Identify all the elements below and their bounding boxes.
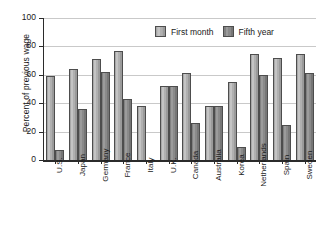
x-label-cell: Korea (225, 165, 248, 231)
x-label-cell: Japan (67, 165, 90, 231)
y-tick-label: 40 (0, 97, 36, 107)
x-tick-label: Germany (101, 148, 110, 181)
bar-fifth (123, 99, 132, 160)
bar-group (44, 18, 67, 160)
bar-group (112, 18, 135, 160)
y-tick-label: 60 (0, 69, 36, 79)
y-tick-mark (39, 103, 43, 104)
bar-group (293, 18, 316, 160)
legend-swatch-icon (155, 26, 166, 37)
bar-fifth (101, 72, 110, 160)
x-axis-labels: U.S.JapanGermanyFranceItalyU.K.CanadaAus… (44, 165, 316, 231)
x-tick-label: Korea (237, 154, 246, 176)
x-tick-label: Spain (282, 155, 291, 176)
y-tick-mark (39, 160, 43, 161)
x-label-cell: Australia (203, 165, 226, 231)
bar-first (114, 51, 123, 160)
bar-first (46, 76, 55, 160)
x-tick-label: Japan (78, 154, 87, 176)
bar-first (69, 69, 78, 160)
legend-label: First month (171, 27, 214, 37)
bar-first (137, 106, 146, 160)
bar-first (296, 54, 305, 161)
x-label-cell: France (112, 165, 135, 231)
x-label-cell: Netherlands (248, 165, 271, 231)
bar-group (89, 18, 112, 160)
y-tick-label: 20 (0, 126, 36, 136)
x-tick-label: Australia (214, 149, 223, 181)
legend-item-first-month: First month (155, 26, 214, 37)
x-label-cell: Canada (180, 165, 203, 231)
x-label-cell: Germany (89, 165, 112, 231)
bar-fifth (305, 73, 314, 160)
bar-first (228, 82, 237, 160)
x-tick-label: Italy (146, 158, 155, 173)
x-label-cell: Spain (271, 165, 294, 231)
x-label-cell: Sweden (293, 165, 316, 231)
bar-fifth (169, 86, 178, 160)
chart-legend: First month Fifth year (152, 22, 277, 41)
y-tick-mark (39, 75, 43, 76)
y-tick-label: 0 (0, 154, 36, 164)
y-tick-mark (39, 18, 43, 19)
x-label-cell: U.K. (157, 165, 180, 231)
bar-first (160, 86, 169, 160)
x-tick-label: U.S. (55, 157, 64, 173)
legend-item-fifth-year: Fifth year (223, 26, 274, 37)
y-tick-label: 80 (0, 40, 36, 50)
bar-chart: Percent of previous wage 020406080100 U.… (0, 0, 327, 232)
y-tick-label: 100 (0, 12, 36, 22)
y-tick-mark (39, 46, 43, 47)
bar-first (92, 59, 101, 160)
bar-first (182, 73, 191, 160)
x-label-cell: U.S. (44, 165, 67, 231)
y-tick-mark (39, 132, 43, 133)
legend-swatch-icon (223, 26, 234, 37)
x-tick-label: Canada (191, 151, 200, 179)
x-tick-label: France (123, 152, 132, 177)
x-tick-label: Netherlands (259, 143, 268, 187)
bar-first (273, 58, 282, 160)
bar-first (205, 106, 214, 160)
bar-group (67, 18, 90, 160)
legend-label: Fifth year (239, 27, 274, 37)
x-tick-label: U.K. (169, 157, 178, 173)
x-tick-label: Sweden (305, 150, 314, 179)
x-label-cell: Italy (135, 165, 158, 231)
bar-fifth (78, 109, 87, 160)
